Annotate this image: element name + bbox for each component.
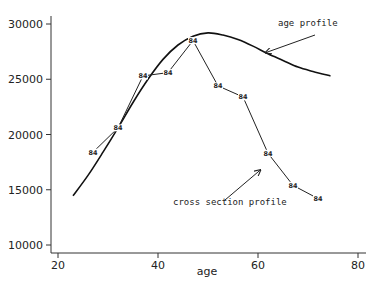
x-tick-label: 80 — [351, 259, 365, 272]
y-tick-label: 15000 — [8, 184, 43, 197]
annotation-age-profile: age profile — [278, 18, 338, 28]
chart: 100001500020000250003000020406080age 848… — [0, 0, 377, 289]
data-point-marker: 84 — [138, 72, 148, 80]
y-tick-label: 30000 — [8, 18, 43, 31]
x-tick-label: 40 — [151, 259, 165, 272]
data-point-marker: 84 — [288, 182, 298, 190]
data-point-marker: 84 — [188, 37, 198, 45]
y-tick-label: 10000 — [8, 239, 43, 252]
arrow-age-profile — [266, 35, 316, 53]
data-point-marker: 84 — [313, 195, 323, 203]
arrow-cross-section-profile — [225, 170, 261, 200]
x-tick-label: 20 — [51, 259, 65, 272]
axes: 100001500020000250003000020406080age — [8, 16, 366, 278]
data-point-marker: 84 — [213, 82, 223, 90]
y-tick-label: 20000 — [8, 129, 43, 142]
y-tick-label: 25000 — [8, 73, 43, 86]
data-point-marker: 84 — [113, 124, 123, 132]
annotation-cross-section-profile: cross section profile — [173, 197, 287, 207]
x-tick-label: 60 — [251, 259, 265, 272]
cross-section-polyline — [93, 41, 318, 199]
data-point-marker: 84 — [263, 150, 273, 158]
data-point-marker: 84 — [163, 69, 173, 77]
x-axis-title: age — [197, 265, 218, 278]
data-point-marker: 84 — [88, 149, 98, 157]
data-point-marker: 84 — [238, 93, 248, 101]
